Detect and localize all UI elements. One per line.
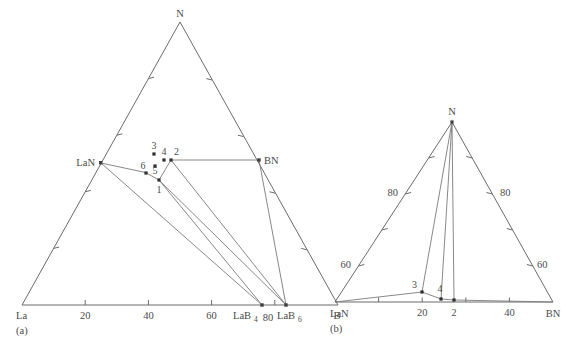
phase-diagram-svg: N La B LaN BN LaB 4 LaB 6 20 40 60 80 1 … bbox=[0, 0, 576, 348]
data-point-2-b bbox=[452, 298, 455, 301]
point-lab6-a bbox=[284, 303, 287, 306]
left-tick-label-60-b: 60 bbox=[341, 259, 352, 270]
vertex-label-lan-b: LaN bbox=[330, 308, 349, 319]
data-point-1-a bbox=[157, 178, 160, 181]
data-point-2-a bbox=[169, 158, 172, 161]
bottom-tick-label-40-b: 40 bbox=[504, 307, 515, 318]
vertex-label-n-a: N bbox=[176, 8, 184, 19]
panel-b: N LaN BN 80 60 80 60 20 40 3 4 2 (b) bbox=[330, 106, 561, 335]
compound-label-lab4-subscript: 4 bbox=[254, 315, 258, 324]
compound-label-lab6-a: LaB 6 bbox=[277, 310, 302, 324]
compound-label-lan-a: LaN bbox=[76, 157, 95, 168]
point-lan-a bbox=[99, 161, 102, 164]
compound-label-bn-a: BN bbox=[264, 155, 279, 166]
tie-lines-a bbox=[101, 160, 286, 305]
right-tick-label-80-b: 80 bbox=[500, 187, 511, 198]
bottom-tick-label-40-a: 40 bbox=[143, 310, 154, 321]
data-point-3-b bbox=[420, 290, 423, 293]
triangle-outline-a bbox=[22, 22, 338, 305]
panel-a: N La B LaN BN LaB 4 LaB 6 20 40 60 80 1 … bbox=[16, 8, 341, 337]
vertex-label-n-b: N bbox=[448, 106, 456, 117]
point-label-3-a: 3 bbox=[152, 140, 157, 151]
left-tick-label-80-b: 80 bbox=[388, 187, 399, 198]
point-label-6-a: 6 bbox=[141, 160, 146, 171]
left-ticks-b bbox=[358, 157, 434, 267]
data-point-4-b bbox=[439, 297, 442, 300]
vertex-label-la-a: La bbox=[16, 310, 27, 321]
tie-lines-b bbox=[335, 122, 553, 302]
point-label-1-a: 1 bbox=[157, 184, 162, 195]
point-label-4-a: 4 bbox=[162, 146, 167, 157]
bottom-tick-label-60-a: 60 bbox=[206, 310, 217, 321]
bottom-tick-label-20-b: 20 bbox=[417, 307, 428, 318]
point-lab4-a bbox=[260, 303, 263, 306]
point-label-2-a: 2 bbox=[174, 146, 179, 157]
point-label-2-b: 2 bbox=[452, 307, 457, 318]
compound-label-lab6-text: LaB bbox=[277, 310, 295, 321]
right-ticks-b bbox=[466, 157, 533, 267]
triangle-outline-b bbox=[335, 122, 553, 302]
data-point-6-a bbox=[144, 171, 147, 174]
point-label-4-b: 4 bbox=[438, 283, 443, 294]
panel-caption-a: (a) bbox=[16, 325, 28, 337]
data-point-3-a bbox=[152, 152, 155, 155]
panel-caption-b: (b) bbox=[330, 323, 343, 335]
figure-root: N La B LaN BN LaB 4 LaB 6 20 40 60 80 1 … bbox=[0, 0, 576, 348]
bottom-tick-label-80-a: 80 bbox=[263, 312, 274, 323]
compound-label-lab4-a: LaB 4 bbox=[233, 310, 258, 324]
bottom-ticks-a bbox=[85, 300, 275, 305]
point-label-5-a: 5 bbox=[153, 165, 158, 176]
point-n-b bbox=[450, 120, 453, 123]
point-bn-a bbox=[257, 158, 260, 161]
compound-label-lab4-text: LaB bbox=[233, 310, 251, 321]
left-ticks-a bbox=[54, 77, 154, 248]
point-label-3-b: 3 bbox=[412, 279, 417, 290]
right-tick-label-60-b: 60 bbox=[537, 259, 548, 270]
bottom-tick-label-20-a: 20 bbox=[80, 310, 91, 321]
compound-label-lab6-subscript: 6 bbox=[298, 315, 302, 324]
bottom-ticks-b bbox=[379, 298, 510, 303]
data-point-4-a bbox=[162, 158, 165, 161]
vertex-label-bn-b: BN bbox=[546, 308, 561, 319]
